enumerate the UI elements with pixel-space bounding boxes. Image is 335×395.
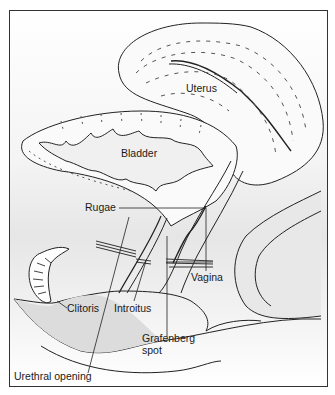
label-urethral-opening: Urethral opening — [14, 371, 92, 382]
label-uterus: Uterus — [186, 83, 217, 94]
label-grafenberg-line1: Grafenberg — [142, 333, 195, 344]
label-clitoris: Clitoris — [67, 303, 99, 314]
label-rugae: Rugae — [85, 202, 116, 213]
pubic-bone — [29, 247, 69, 302]
label-grafenberg-line2: spot — [142, 345, 162, 356]
label-bladder: Bladder — [121, 148, 157, 159]
introitus-leader — [134, 261, 146, 301]
label-vagina: Vagina — [191, 272, 223, 283]
label-introitus: Introitus — [114, 303, 151, 314]
diagram-frame — [9, 10, 328, 387]
anatomy-drawing — [10, 11, 328, 387]
rectum-shape — [235, 191, 321, 319]
